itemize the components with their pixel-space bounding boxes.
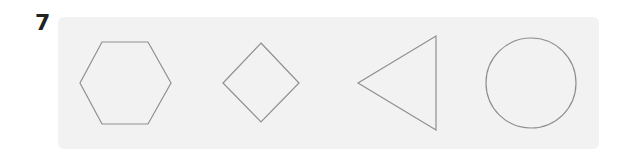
circle-shape [486, 38, 576, 128]
shapes-figure [0, 0, 630, 161]
triangle-shape [358, 36, 436, 130]
diamond-shape [223, 43, 299, 122]
hexagon-shape [80, 42, 171, 124]
